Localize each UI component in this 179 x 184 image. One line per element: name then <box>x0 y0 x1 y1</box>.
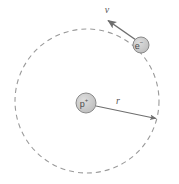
electron-charge: − <box>140 39 144 45</box>
diagram-canvas: p+ e− v r <box>0 0 179 184</box>
physics-diagram-figure: p+ e− v r <box>0 0 179 184</box>
radius-arrow <box>96 106 156 119</box>
velocity-arrow <box>108 21 136 41</box>
proton-charge: + <box>85 97 89 103</box>
radius-label: r <box>116 95 120 106</box>
velocity-label: v <box>105 4 110 15</box>
